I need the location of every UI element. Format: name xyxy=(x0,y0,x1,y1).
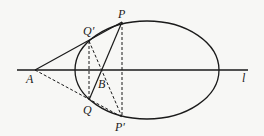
label-B: B xyxy=(98,77,106,91)
label-P-prime: P′ xyxy=(114,120,125,134)
label-A: A xyxy=(25,72,34,86)
diagram-canvas: A P Q′ B Q P′ l xyxy=(0,0,264,136)
segment-Q-prime-P-prime-dashed xyxy=(89,41,122,117)
segment-A-P xyxy=(35,22,122,70)
label-l: l xyxy=(242,71,246,85)
ellipse-geometry-figure: A P Q′ B Q P′ l xyxy=(0,0,264,136)
label-Q-prime: Q′ xyxy=(83,24,95,38)
label-Q: Q xyxy=(83,103,92,117)
label-P: P xyxy=(117,7,126,21)
segment-A-P-prime-dashed xyxy=(35,70,122,117)
